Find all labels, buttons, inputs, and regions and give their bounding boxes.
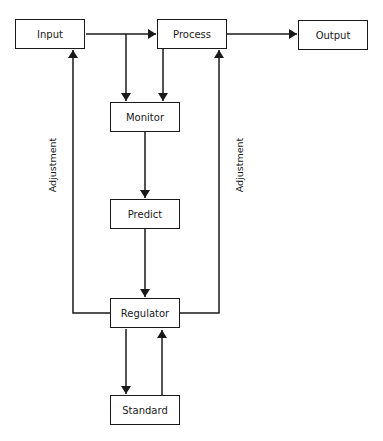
connector-lines (0, 0, 383, 441)
edge-regulator-process (180, 50, 219, 313)
node-predict: Predict (110, 199, 180, 229)
node-input-label: Input (37, 29, 63, 40)
node-process-label: Process (173, 29, 211, 40)
edge-label-left-adjustment: Adjustment (47, 130, 59, 200)
node-output-label: Output (316, 30, 351, 41)
node-regulator: Regulator (110, 298, 180, 328)
edge-label-right-adjustment: Adjustment (234, 130, 246, 200)
node-monitor: Monitor (110, 102, 180, 132)
node-input: Input (15, 19, 85, 49)
node-standard-label: Standard (122, 405, 168, 416)
node-process: Process (157, 19, 227, 49)
node-predict-label: Predict (128, 209, 162, 220)
edge-regulator-input (73, 50, 110, 313)
node-regulator-label: Regulator (121, 308, 169, 319)
node-standard: Standard (110, 395, 180, 425)
node-output: Output (298, 20, 368, 50)
flow-diagram: Input Process Output Monitor Predict Reg… (0, 0, 383, 441)
node-monitor-label: Monitor (126, 112, 164, 123)
